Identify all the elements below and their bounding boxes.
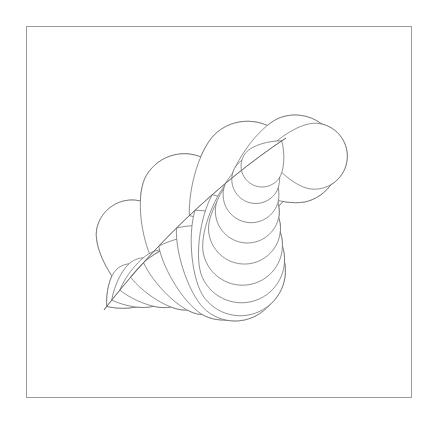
feather-pattern-svg [0, 0, 436, 422]
feather-lower-right [96, 115, 347, 321]
plume-layer [96, 115, 347, 321]
drawing-canvas [0, 0, 436, 422]
